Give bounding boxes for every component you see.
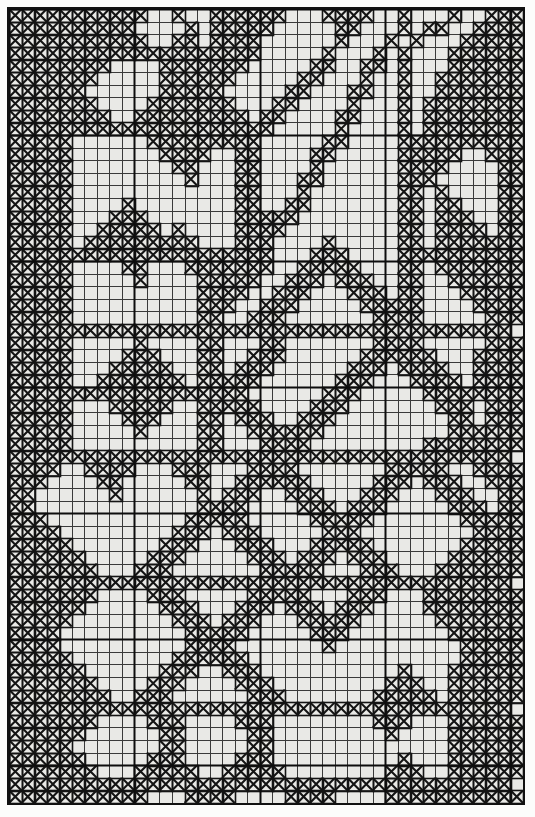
pattern-chart-canvas xyxy=(9,9,523,803)
pattern-chart-frame xyxy=(7,7,525,805)
chart-page: Filet Crochet / Cross-Stitch Pattern Cha… xyxy=(0,0,535,817)
